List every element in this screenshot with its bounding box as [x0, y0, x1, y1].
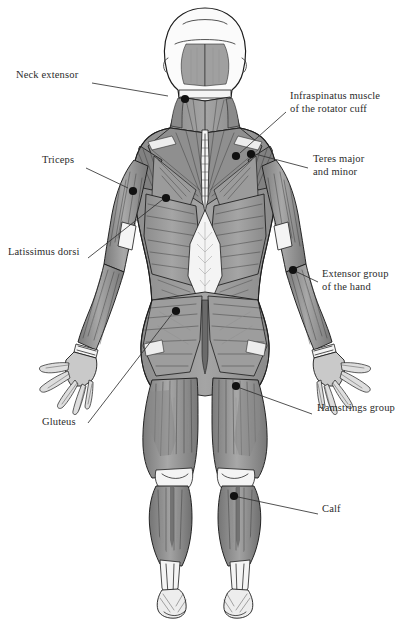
marker-dot-latissimus-dorsi — [162, 194, 170, 202]
label-hamstrings-group: Hamstrings group — [317, 401, 395, 414]
neck-group — [170, 97, 240, 133]
left-arm-group — [39, 160, 148, 415]
head-group — [164, 8, 247, 101]
marker-dot-extensor-group-hand — [289, 266, 297, 274]
label-triceps: Triceps — [42, 153, 74, 166]
label-neck-extensor: Neck extensor — [16, 68, 78, 81]
label-line: and minor — [313, 165, 364, 178]
marker-dot-teres-major-minor — [247, 150, 255, 158]
label-calf: Calf — [322, 502, 341, 515]
label-line: Extensor group — [322, 267, 389, 280]
calves-group — [149, 486, 261, 618]
label-teres-major-minor: Teres majorand minor — [313, 152, 364, 178]
label-line: Gluteus — [42, 415, 76, 428]
label-extensor-group-hand: Extensor groupof the hand — [322, 267, 389, 293]
label-line: Triceps — [42, 153, 74, 166]
label-line: Latissimus dorsi — [8, 245, 80, 258]
label-line: Infraspinatus muscle — [290, 89, 380, 102]
label-line: of the hand — [322, 280, 389, 293]
label-line: of the rotator cuff — [290, 102, 380, 115]
label-line: Calf — [322, 502, 341, 515]
label-latissimus-dorsi: Latissimus dorsi — [8, 245, 80, 258]
label-infraspinatus: Infraspinatus muscleof the rotator cuff — [290, 89, 380, 115]
marker-dot-infraspinatus — [232, 152, 240, 160]
leader-line-neck-extensor — [92, 83, 168, 96]
marker-dot-calf — [230, 492, 238, 500]
label-gluteus: Gluteus — [42, 415, 76, 428]
marker-dot-neck-extensor — [181, 95, 189, 103]
marker-dot-triceps — [129, 187, 137, 195]
marker-dot-gluteus — [172, 307, 180, 315]
label-line: Teres major — [313, 152, 364, 165]
label-line: Neck extensor — [16, 68, 78, 81]
label-line: Hamstrings group — [317, 401, 395, 414]
leader-line-triceps — [86, 168, 128, 188]
anatomy-figure: .ol{fill:none;stroke:#1c1c1c;stroke-widt… — [0, 0, 411, 625]
marker-dot-hamstrings-group — [232, 382, 240, 390]
